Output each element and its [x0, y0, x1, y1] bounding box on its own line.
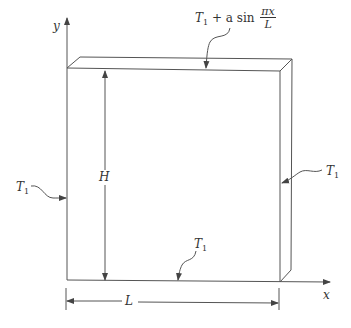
right-leader — [282, 170, 322, 183]
length-label: L — [125, 295, 133, 307]
height-label: H — [98, 171, 110, 183]
left-boundary-label: T1 — [16, 181, 29, 196]
top-boundary-label: T1 + a sin πxL — [195, 6, 276, 30]
x-axis — [67, 280, 330, 282]
top-leader — [206, 28, 230, 68]
plate-top-edge — [67, 68, 280, 71]
left-leader — [31, 186, 66, 198]
right-boundary-label: T1 — [326, 165, 339, 180]
plate-diagram: y x H L T1 + a sin πxL T1 T1 T1 — [0, 0, 351, 328]
bottom-leader — [178, 251, 196, 280]
bottom-boundary-label: T1 — [194, 238, 207, 253]
y-axis-label: y — [53, 20, 60, 32]
diagram-drawing — [0, 0, 351, 328]
x-axis-label: x — [323, 289, 330, 301]
